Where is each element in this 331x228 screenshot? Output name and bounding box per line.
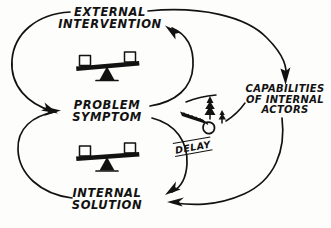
diagram-canvas: .ink { fill: none; stroke: #121212; stro… bbox=[0, 0, 331, 228]
balance-scale-icon bbox=[76, 143, 140, 171]
link-capabilities-to-internal bbox=[167, 118, 283, 207]
node-label-line: SYMPTOM bbox=[55, 112, 159, 124]
balance-scale-icon bbox=[76, 52, 140, 81]
node-problem-symptom: PROBLEM SYMPTOM bbox=[55, 100, 159, 123]
node-label-line: ACTORS bbox=[240, 105, 330, 116]
node-label-line: CAPABILITIES bbox=[240, 84, 330, 95]
node-capabilities-of-internal-actors: CAPABILITIES OF INTERNAL ACTORS bbox=[240, 84, 330, 116]
saw-and-trees-icon bbox=[180, 95, 245, 134]
link-problem-to-internal-delayed bbox=[152, 118, 187, 195]
node-label-line: INTERVENTION bbox=[52, 19, 168, 31]
node-external-intervention: EXTERNAL INTERVENTION bbox=[52, 7, 168, 30]
node-label-line: SOLUTION bbox=[53, 200, 161, 212]
node-internal-solution: INTERNAL SOLUTION bbox=[53, 188, 161, 211]
link-problem-to-external bbox=[150, 26, 193, 107]
link-external-to-capabilities bbox=[148, 10, 290, 85]
